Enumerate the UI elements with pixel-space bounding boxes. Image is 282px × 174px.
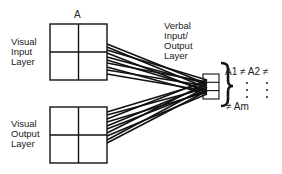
- label-line: Layer: [11, 139, 35, 149]
- dot: [266, 82, 268, 84]
- network-diagram: [0, 0, 282, 174]
- dot: [246, 89, 248, 91]
- dot: [246, 82, 248, 84]
- label-line: Layer: [164, 51, 188, 61]
- dot: [266, 96, 268, 98]
- visual-output-grid: [50, 107, 107, 163]
- dot: [227, 82, 229, 84]
- equation-bottom: ≠ Am: [226, 101, 249, 112]
- label-line: Layer: [11, 57, 35, 67]
- equation-top: A1 ≠ A2 ≠: [225, 66, 268, 77]
- dot: [266, 89, 268, 91]
- grid-label-a: A: [74, 10, 81, 20]
- dot: [246, 96, 248, 98]
- visual-input-grid: [50, 24, 107, 80]
- dot: [227, 89, 229, 91]
- dot: [227, 96, 229, 98]
